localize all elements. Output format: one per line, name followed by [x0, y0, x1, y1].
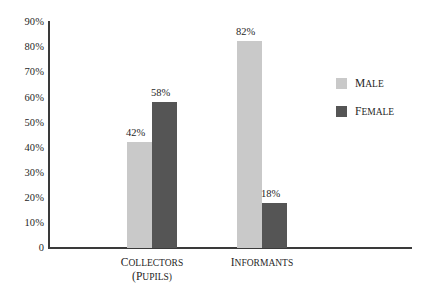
y-tick-label-30: 30%: [2, 167, 44, 178]
y-tick-label-90: 90%: [2, 16, 44, 27]
plot-area: 42% 58% 82% 18%: [50, 21, 412, 248]
legend-item-male[interactable]: MALE: [336, 74, 436, 92]
y-tick-label-80: 80%: [2, 41, 44, 52]
y-tick-label-50: 50%: [2, 117, 44, 128]
bar-label-informants-female: 18%: [261, 188, 280, 199]
y-tick-label-60: 60%: [2, 92, 44, 103]
x-category-label-informants: INFORMANTS: [212, 256, 312, 270]
bar-chart: 90% 80% 70% 60% 50% 40% 30% 20% 10% 0 42…: [0, 0, 438, 295]
y-tick-label-40: 40%: [2, 142, 44, 153]
bar-label-collectors-female: 58%: [151, 87, 170, 98]
y-axis-tick-labels: 90% 80% 70% 60% 50% 40% 30% 20% 10% 0: [0, 0, 44, 295]
x-category-label-collectors: COLLECTORS (PUPILS): [102, 256, 202, 284]
y-tick-label-20: 20%: [2, 192, 44, 203]
bar-label-informants-male: 82%: [236, 26, 255, 37]
legend-label-male: MALE: [355, 77, 384, 90]
x-category-label-collectors-line2: (PUPILS): [102, 270, 202, 284]
bar-collectors-female[interactable]: [152, 102, 177, 248]
legend-swatch-female-icon: [336, 106, 347, 117]
y-tick-label-70: 70%: [2, 66, 44, 77]
legend-label-female: FEMALE: [355, 105, 394, 118]
legend-item-female[interactable]: FEMALE: [336, 102, 436, 120]
bar-informants-female[interactable]: [262, 203, 287, 248]
legend-swatch-male-icon: [336, 78, 347, 89]
y-tick-label-0: 0: [2, 242, 44, 253]
x-category-label-informants-line1: INFORMANTS: [231, 258, 293, 268]
bar-collectors-male[interactable]: [127, 142, 152, 248]
bar-informants-male[interactable]: [237, 41, 262, 248]
legend: MALE FEMALE: [336, 74, 436, 130]
y-tick-label-10: 10%: [2, 217, 44, 228]
bar-label-collectors-male: 42%: [126, 127, 145, 138]
x-category-label-collectors-line1: COLLECTORS: [121, 258, 183, 268]
